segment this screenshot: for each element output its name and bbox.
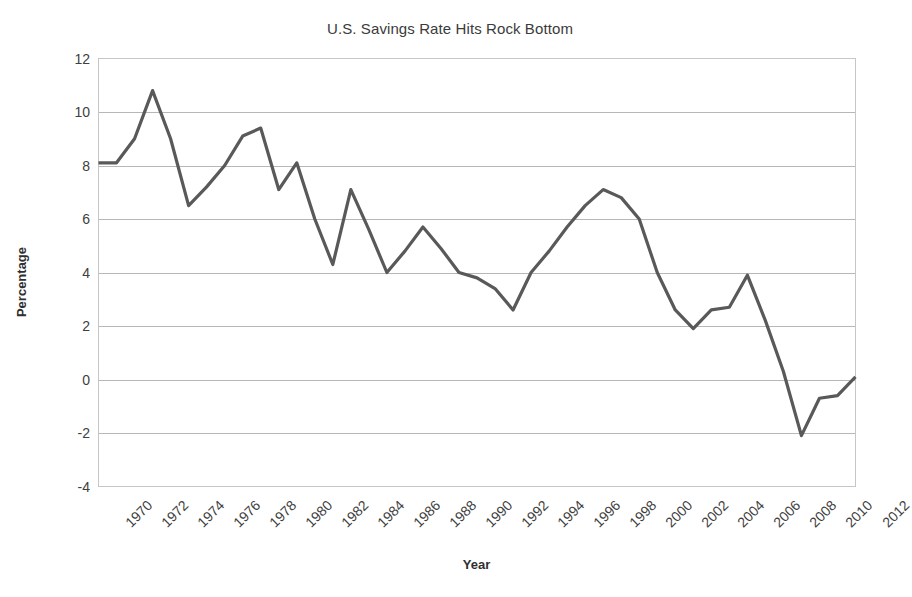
x-axis-tick-label: 1976 bbox=[230, 497, 263, 530]
x-axis-tick-label: 1990 bbox=[482, 497, 515, 530]
x-axis-tick-label: 1994 bbox=[554, 497, 587, 530]
x-axis-tick-label: 2006 bbox=[770, 497, 803, 530]
x-axis-tick-label: 1970 bbox=[122, 497, 155, 530]
x-axis-tick-label: 1992 bbox=[518, 497, 551, 530]
x-axis-tick-label: 1986 bbox=[410, 497, 443, 530]
x-axis-tick-label: 2002 bbox=[698, 497, 731, 530]
x-axis-tick-label: 1988 bbox=[446, 497, 479, 530]
x-axis-tick-label: 1998 bbox=[626, 497, 659, 530]
x-axis-tick-label: 2004 bbox=[734, 497, 767, 530]
x-axis-tick-label: 1972 bbox=[158, 497, 191, 530]
x-axis-tick-label: 2012 bbox=[879, 497, 912, 530]
x-axis-tick-label: 2000 bbox=[662, 497, 695, 530]
x-axis-tick-label: 1984 bbox=[374, 497, 407, 530]
x-axis-tick-label: 1974 bbox=[194, 497, 227, 530]
x-axis-tick-label: 1996 bbox=[590, 497, 623, 530]
x-axis-tick-label: 2008 bbox=[807, 497, 840, 530]
x-axis-tick-label: 2010 bbox=[843, 497, 876, 530]
x-axis-title: Year bbox=[98, 557, 855, 572]
x-axis-tick-label: 1982 bbox=[338, 497, 371, 530]
x-axis-tick-label: 1980 bbox=[302, 497, 335, 530]
x-axis-tick-label: 1978 bbox=[266, 497, 299, 530]
